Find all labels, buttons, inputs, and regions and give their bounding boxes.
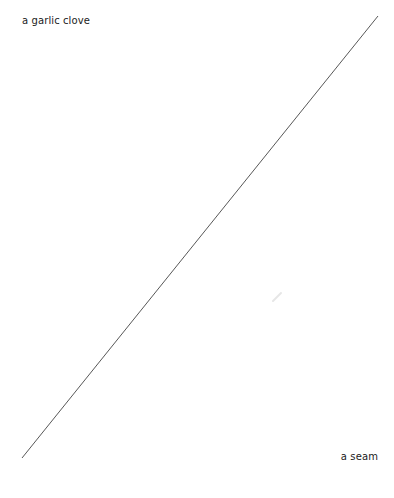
diagram-canvas: a garlic clove a seam <box>0 0 394 498</box>
connector-line-svg <box>0 0 394 498</box>
faint-mark <box>273 293 281 301</box>
start-label: a garlic clove <box>22 15 90 26</box>
end-label: a seam <box>341 451 378 462</box>
connector-line <box>22 16 378 458</box>
